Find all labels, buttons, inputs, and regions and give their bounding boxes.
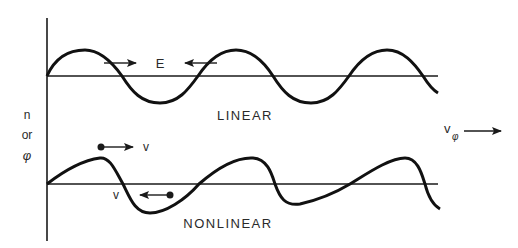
linear-panel: E LINEAR (47, 50, 438, 123)
wave-diagram: n or φ E LINEAR v v NONLINEAR v φ (0, 0, 518, 248)
nonlinear-wave (47, 158, 440, 213)
velocity-label-forward: v (143, 140, 149, 154)
y-axis-label-n: n (24, 108, 31, 122)
field-label-e: E (156, 56, 165, 71)
nonlinear-panel: v v NONLINEAR (47, 140, 440, 231)
y-axis-label-or: or (22, 128, 33, 142)
nonlinear-label: NONLINEAR (183, 216, 272, 231)
phase-velocity-subscript: φ (452, 131, 459, 142)
y-axis-label-phi: φ (23, 148, 32, 163)
phase-velocity-indicator: v φ (444, 121, 501, 142)
velocity-label-backward: v (113, 188, 119, 202)
linear-label: LINEAR (217, 108, 273, 123)
phase-velocity-symbol: v (444, 121, 451, 136)
